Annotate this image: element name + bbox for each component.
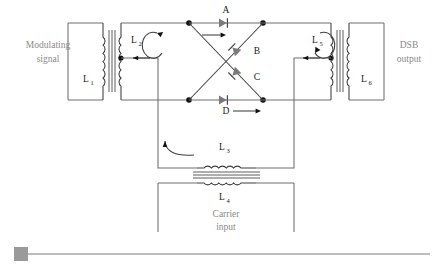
circuit-diagram-svg: Modulating signal DSB output Carrier inp… <box>0 0 438 265</box>
l2-arrow-head <box>157 32 163 37</box>
tap-current-arrow-head <box>133 56 138 61</box>
diode-c-triangle <box>229 67 241 79</box>
scrollbar-handle[interactable] <box>14 247 28 261</box>
transformer-l5-l6 <box>331 23 349 100</box>
diode-b-triangle <box>229 44 241 56</box>
inductor-label-l6-base: L <box>361 74 367 84</box>
carrier-input-label-line1: Carrier <box>213 209 241 219</box>
coil-l1 <box>103 23 105 100</box>
bridge-current-arrows <box>202 33 261 114</box>
l5-arrow-head <box>315 47 320 53</box>
modulating-source-loop <box>68 23 103 100</box>
inductor-label-l5-sub: 5 <box>319 40 322 47</box>
inductor-label-l3-sub: 3 <box>226 147 229 154</box>
inductor-label-l2: L 2 <box>131 35 142 47</box>
l3-current-arrow <box>163 141 194 155</box>
dsb-output-loop <box>349 23 384 100</box>
coil-l6 <box>347 23 349 100</box>
inductor-label-l2-base: L <box>131 35 137 45</box>
diode-d-triangle <box>219 95 227 104</box>
horizontal-scrollbar[interactable] <box>14 247 430 261</box>
transformer-l1-l2 <box>103 23 121 100</box>
diode-c-symbol <box>228 66 241 79</box>
l3-arrow-curve <box>165 141 194 155</box>
l2-center-tap <box>118 55 197 168</box>
l5-arrow-curve <box>315 32 335 58</box>
transformer-l3-l4 <box>193 166 260 185</box>
inductor-label-l4: L 4 <box>219 192 230 204</box>
inductor-label-l1: L 1 <box>83 74 94 86</box>
inductor-label-l3-base: L <box>219 142 225 152</box>
coil-l2 <box>119 23 121 100</box>
inductor-label-l6-sub: 6 <box>368 79 372 86</box>
ring-modulator-figure: Modulating signal DSB output Carrier inp… <box>0 0 438 265</box>
diode-label-c: C <box>254 72 260 82</box>
diode-label-a: A <box>223 5 230 15</box>
dsb-output-label-line1: DSB <box>400 40 418 50</box>
l3-arrow-head <box>163 141 168 147</box>
inductor-label-l5-base: L <box>312 35 318 45</box>
dsb-output-label-line2: output <box>397 54 422 64</box>
inductor-label-l3: L 3 <box>219 142 230 154</box>
inductor-label-l1-sub: 1 <box>90 79 93 86</box>
wire-l2-tap-to-l3-left <box>121 58 197 168</box>
inductor-label-l6: L 6 <box>361 74 372 86</box>
modulating-signal-label-line2: signal <box>37 54 60 64</box>
inductor-label-l5: L 5 <box>312 35 323 47</box>
diode-ring-bridge <box>186 18 266 105</box>
l5-center-tap <box>256 55 334 168</box>
wire-l5-tap-to-l3-right <box>256 58 331 168</box>
diode-b-symbol <box>228 43 241 56</box>
inductor-label-l4-base: L <box>219 192 225 202</box>
l5-tap-arrow-head <box>303 56 308 61</box>
diode-label-b: B <box>254 46 260 56</box>
l2-circulating-arrow <box>142 32 163 58</box>
diode-a-triangle <box>219 18 227 27</box>
carrier-input-label-line2: input <box>216 222 236 232</box>
inductor-label-l1-base: L <box>83 74 89 84</box>
bottom-current-arrow-head <box>256 109 261 114</box>
modulating-signal-label-line1: Modulating <box>26 40 71 50</box>
inductor-label-l2-sub: 2 <box>138 40 141 47</box>
coil-l5 <box>331 23 333 100</box>
coil-l3 <box>197 166 256 168</box>
l5-circulating-arrow <box>315 32 335 58</box>
diode-label-d: D <box>223 106 230 116</box>
l2-arrow-curve <box>142 32 162 58</box>
top-current-arrow-head <box>221 33 226 38</box>
bridge-right-wires <box>263 23 331 100</box>
inductor-label-l4-sub: 4 <box>226 197 230 204</box>
coil-l4 <box>197 183 256 185</box>
